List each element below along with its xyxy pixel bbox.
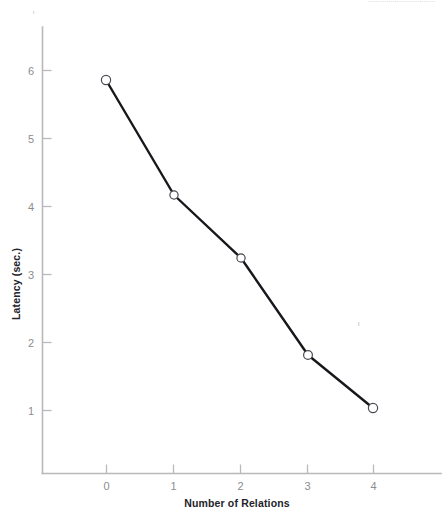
series-line-latency: [106, 80, 373, 408]
chart-page: …………………………… 6 5 4 3 2 1: [0, 0, 442, 517]
data-point-2: [237, 254, 245, 262]
data-point-3: [304, 351, 313, 360]
y-tick-label-3: 3: [28, 269, 34, 281]
y-tick-label-4: 4: [28, 201, 34, 213]
y-tick-labels: 6 5 4 3 2 1: [28, 65, 34, 417]
x-tick-label-2: 2: [237, 480, 243, 492]
x-tick-labels: 0 1 2 3 4: [103, 480, 376, 492]
data-point-4: [368, 403, 377, 412]
y-tick-label-2: 2: [28, 337, 34, 349]
x-tick-label-0: 0: [103, 480, 109, 492]
x-tick-marks: [107, 465, 374, 474]
y-axis-title: Latency (sec.): [10, 248, 22, 320]
y-tick-marks: [43, 71, 52, 411]
x-axis-title: Number of Relations: [184, 497, 290, 509]
data-point-0: [101, 75, 110, 84]
x-tick-label-3: 3: [304, 480, 310, 492]
y-tick-label-6: 6: [28, 65, 34, 77]
x-tick-label-4: 4: [370, 480, 376, 492]
data-point-markers: [101, 75, 377, 412]
line-chart: 6 5 4 3 2 1 0 1 2 3 4: [0, 0, 442, 517]
data-point-1: [170, 191, 178, 199]
y-tick-label-5: 5: [28, 133, 34, 145]
print-speck: [358, 322, 359, 326]
print-speck: [33, 11, 34, 14]
x-tick-label-1: 1: [170, 480, 176, 492]
y-tick-label-1: 1: [28, 405, 34, 417]
